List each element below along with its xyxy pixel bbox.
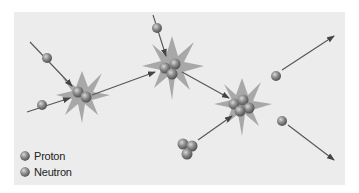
neutron-icon bbox=[20, 167, 30, 177]
proton-icon bbox=[20, 151, 30, 161]
legend-label-proton: Proton bbox=[34, 150, 65, 162]
proton-particle bbox=[277, 116, 287, 126]
proton-particle bbox=[42, 53, 52, 63]
proton-particle bbox=[271, 71, 281, 81]
proton-particle bbox=[152, 23, 162, 33]
legend: Proton Neutron bbox=[20, 148, 72, 180]
proton-particle bbox=[37, 100, 47, 110]
legend-item-neutron: Neutron bbox=[20, 164, 72, 180]
legend-item-proton: Proton bbox=[20, 148, 72, 164]
legend-label-neutron: Neutron bbox=[34, 166, 72, 178]
